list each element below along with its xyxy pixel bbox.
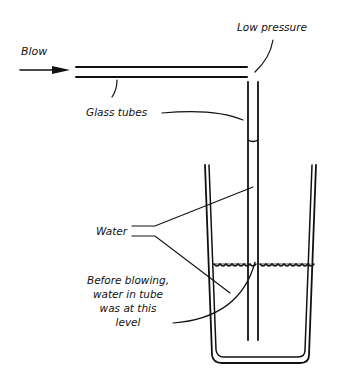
label-before-blowing: Before blowing, water in tube was at thi… xyxy=(78,273,178,329)
beaker-inner-wall xyxy=(209,165,312,357)
before-line-4: level xyxy=(78,315,178,329)
label-water: Water xyxy=(96,224,127,238)
water-leader-upper xyxy=(132,187,253,226)
low-pressure-leader xyxy=(255,40,273,72)
before-line-3: was at this xyxy=(78,301,178,315)
before-line-1: Before blowing, xyxy=(78,273,178,287)
before-line-2: water in tube xyxy=(78,287,178,301)
label-glass-tubes: Glass tubes xyxy=(86,105,147,119)
raised-water-meniscus xyxy=(248,140,258,142)
glass-tubes-leader-2 xyxy=(162,112,243,120)
label-blow: Blow xyxy=(21,45,47,59)
blow-arrow-head-icon xyxy=(52,66,70,74)
glass-tubes-leader-1 xyxy=(112,80,117,97)
label-low-pressure: Low pressure xyxy=(237,20,307,34)
